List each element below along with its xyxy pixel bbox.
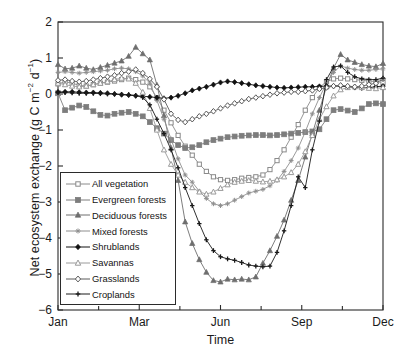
legend-item-shrublands: Shrublands (61, 239, 175, 255)
legend-marker-open-square-icon (65, 177, 91, 191)
x-axis-title: Time (58, 333, 383, 347)
legend-label: Deciduous forests (91, 211, 167, 220)
chart-legend: All vegetationEvergreen forestsDeciduous… (60, 172, 176, 305)
legend-marker-open-diamond-icon (65, 272, 91, 286)
legend-item-croplands: Croplands (61, 287, 175, 303)
x-tick-label: Sep (282, 315, 322, 329)
legend-label: Shrublands (91, 242, 139, 251)
legend-label: Savannas (91, 258, 134, 267)
legend-label: Evergreen forests (91, 195, 166, 204)
legend-label: Grasslands (91, 274, 139, 283)
legend-item-deciduous-forests: Deciduous forests (61, 208, 175, 224)
legend-item-all-vegetation: All vegetation (61, 176, 175, 192)
series-all-vegetation (56, 76, 385, 182)
y-tick-label: −1 (26, 123, 52, 137)
legend-item-grasslands: Grasslands (61, 271, 175, 287)
x-tick-label: Dec (363, 315, 402, 329)
y-tick-label: −4 (26, 231, 52, 245)
legend-marker-open-triangle-icon (65, 256, 91, 270)
legend-marker-filled-square-icon (65, 193, 91, 207)
y-tick-label: 1 (26, 51, 52, 65)
y-tick-label: −5 (26, 267, 52, 281)
legend-marker-filled-triangle-icon (65, 208, 91, 222)
y-tick-label: 2 (26, 15, 52, 29)
x-tick-label: Jun (201, 315, 241, 329)
legend-marker-filled-diamond-icon (65, 240, 91, 254)
legend-marker-small-star-icon (65, 224, 91, 238)
legend-label: Mixed forests (91, 227, 148, 236)
legend-marker-plus-bar-icon (65, 287, 91, 301)
legend-item-savannas: Savannas (61, 255, 175, 271)
legend-item-mixed-forests: Mixed forests (61, 223, 175, 239)
chart-figure: Net ecosystem exchange (g C m−2 d−1) Tim… (0, 0, 402, 361)
x-tick-label: Mar (119, 315, 159, 329)
series-evergreen-forests (56, 91, 386, 151)
y-tick-label: −3 (26, 195, 52, 209)
x-tick-label: Jan (38, 315, 78, 329)
y-tick-label: −2 (26, 159, 52, 173)
legend-label: Croplands (91, 290, 135, 299)
legend-item-evergreen-forests: Evergreen forests (61, 192, 175, 208)
y-tick-label: 0 (26, 87, 52, 101)
legend-label: All vegetation (91, 179, 148, 188)
